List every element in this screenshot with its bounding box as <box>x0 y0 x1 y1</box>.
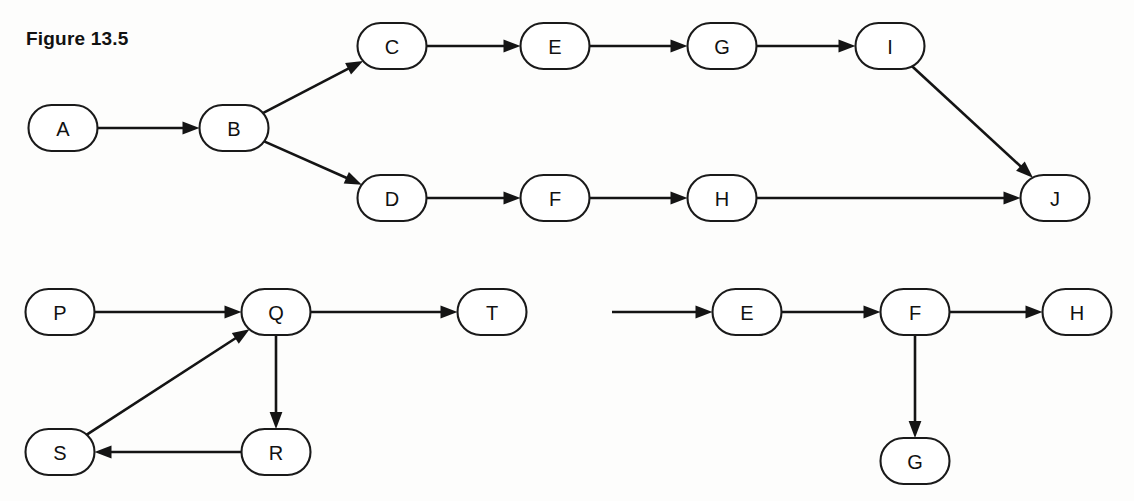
arrowhead-icon <box>671 192 688 205</box>
diagram-canvas: ABCEGIDFHJPQTRSEFHG <box>0 0 1134 501</box>
edge-A-to-B <box>98 122 200 135</box>
node-b[interactable]: B <box>200 105 269 151</box>
arrowhead-icon <box>183 122 200 135</box>
node-j[interactable]: J <box>1021 175 1090 221</box>
node-label: G <box>907 451 923 473</box>
node-c[interactable]: C <box>358 23 427 69</box>
node-label: D <box>385 188 399 210</box>
edge-D-to-F <box>427 192 521 205</box>
node-label: E <box>548 36 561 58</box>
arrowhead-icon <box>232 329 250 344</box>
node-label: P <box>53 302 66 324</box>
node-label: C <box>385 36 399 58</box>
node-label: F <box>909 302 921 324</box>
node-s[interactable]: S <box>26 429 95 475</box>
bottom-right-graph: EFHG <box>612 289 1112 484</box>
node-i[interactable]: I <box>856 23 925 69</box>
node-r[interactable]: R <box>242 429 311 475</box>
node-label: Q <box>268 302 284 324</box>
top-graph: ABCEGIDFHJ <box>29 23 1090 221</box>
edge-I-to-J <box>912 66 1033 177</box>
node-a[interactable]: A <box>29 105 98 151</box>
arrowhead-icon <box>1026 306 1043 319</box>
arrowhead-icon <box>95 446 112 459</box>
edge-S-to-Q <box>86 329 249 435</box>
node-label: E <box>740 302 753 324</box>
arrowhead-icon <box>225 306 242 319</box>
arrowhead-icon <box>441 306 458 319</box>
arrowhead-icon <box>1004 192 1021 205</box>
node-label: F <box>549 188 561 210</box>
edge-line <box>912 66 1023 168</box>
arrowhead-icon <box>864 306 881 319</box>
edge-B-to-C <box>263 61 363 113</box>
arrowhead-icon <box>344 172 362 185</box>
node-f[interactable]: F <box>881 289 950 335</box>
arrowhead-icon <box>671 40 688 53</box>
node-label: B <box>227 118 240 140</box>
node-f[interactable]: F <box>521 175 590 221</box>
node-label: I <box>887 36 893 58</box>
node-g[interactable]: G <box>688 23 757 69</box>
arrowhead-icon <box>839 40 856 53</box>
node-label: H <box>1070 302 1084 324</box>
node-label: S <box>53 442 66 464</box>
figure-container: Figure 13.5 ABCEGIDFHJPQTRSEFHG <box>0 0 1134 501</box>
edge-line <box>264 141 349 179</box>
edge-line <box>263 67 351 113</box>
node-d[interactable]: D <box>358 175 427 221</box>
edge-entry-to-E <box>612 306 713 319</box>
bottom-left-graph: PQTRS <box>26 289 527 475</box>
node-label: R <box>269 442 283 464</box>
node-label: G <box>714 36 730 58</box>
node-e[interactable]: E <box>713 289 782 335</box>
node-h[interactable]: H <box>688 175 757 221</box>
edge-P-to-Q <box>95 306 242 319</box>
node-g[interactable]: G <box>881 438 950 484</box>
edge-Q-to-R <box>270 335 283 429</box>
edge-B-to-D <box>264 141 362 184</box>
node-t[interactable]: T <box>458 289 527 335</box>
arrowhead-icon <box>345 61 363 75</box>
arrowhead-icon <box>909 421 922 438</box>
node-p[interactable]: P <box>26 289 95 335</box>
edge-line <box>86 337 237 435</box>
node-q[interactable]: Q <box>242 289 311 335</box>
arrowhead-icon <box>504 40 521 53</box>
edge-F-to-G <box>909 335 922 438</box>
node-label: H <box>715 188 729 210</box>
node-e[interactable]: E <box>521 23 590 69</box>
edge-F-to-H <box>590 192 688 205</box>
edge-C-to-E <box>427 40 521 53</box>
edge-E-to-F <box>782 306 881 319</box>
node-label: A <box>56 118 70 140</box>
arrowhead-icon <box>504 192 521 205</box>
arrowhead-icon <box>270 412 283 429</box>
edge-E-to-G <box>590 40 688 53</box>
node-label: J <box>1050 188 1060 210</box>
edge-G-to-I <box>757 40 856 53</box>
edge-Q-to-T <box>311 306 458 319</box>
edge-R-to-S <box>95 446 242 459</box>
node-label: T <box>486 302 498 324</box>
edge-H-to-J <box>757 192 1021 205</box>
edge-F-to-H <box>950 306 1043 319</box>
arrowhead-icon <box>696 306 713 319</box>
node-h[interactable]: H <box>1043 289 1112 335</box>
